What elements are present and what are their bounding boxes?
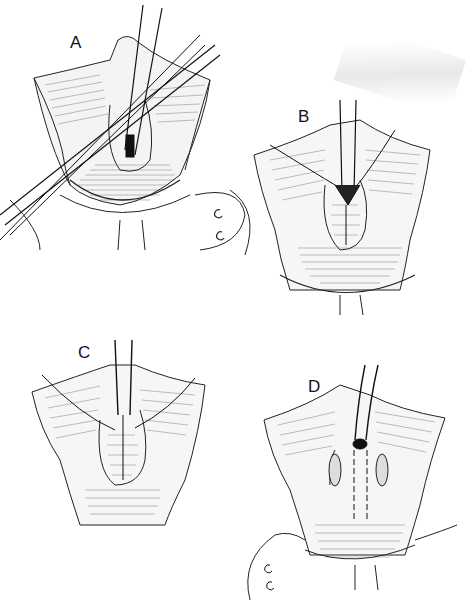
panel-d-label: D [308, 378, 320, 395]
panel-d-drawing [230, 340, 457, 601]
panel-a-label: A [70, 34, 81, 51]
panel-b-label: B [298, 108, 309, 125]
panel-d: D [230, 340, 457, 601]
panel-c-label: C [78, 344, 90, 361]
panel-b-drawing [230, 60, 457, 320]
panel-c-drawing [0, 320, 240, 560]
panel-a-drawing [0, 0, 250, 250]
panel-a: A [0, 0, 250, 250]
panel-b: B [230, 60, 457, 320]
panel-c: C [0, 320, 240, 560]
